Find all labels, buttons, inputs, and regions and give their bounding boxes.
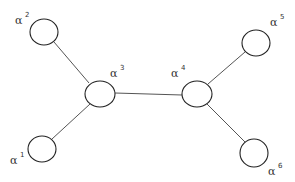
node-label-a1: α <box>10 154 18 167</box>
node-superscript-a4: 4 <box>181 64 186 72</box>
node-label-a3: α <box>110 67 118 80</box>
node-superscript-a3: 3 <box>120 64 124 72</box>
edge-a1-a3 <box>52 104 90 139</box>
node-a3 <box>85 81 115 107</box>
node-label-a6: α <box>268 165 276 178</box>
node-a6 <box>240 139 268 167</box>
node-superscript-a5: 5 <box>280 13 284 21</box>
node-a5 <box>242 30 270 56</box>
edge-a4-a5 <box>208 52 245 84</box>
node-a2 <box>30 19 58 45</box>
node-superscript-a1: 1 <box>20 151 24 159</box>
node-label-a5: α <box>270 16 278 29</box>
edge-a2-a3 <box>54 42 89 83</box>
node-superscript-a2: 2 <box>25 11 29 19</box>
node-superscript-a6: 6 <box>278 162 283 170</box>
edge-a4-a6 <box>207 104 245 142</box>
node-label-a4: α <box>171 67 179 80</box>
node-a4 <box>182 81 212 107</box>
node-label-a2: α <box>15 14 23 27</box>
edge-a3-a4 <box>115 93 182 95</box>
node-a1 <box>28 136 56 162</box>
graph-diagram: α1α2α3α4α5α6 <box>0 0 295 182</box>
